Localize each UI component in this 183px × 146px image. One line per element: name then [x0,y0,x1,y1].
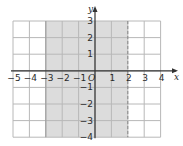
x-tick-label: −1 [73,73,86,83]
origin-label: O [88,73,96,83]
y-axis-arrow-icon [93,6,98,12]
y-tick-label: −3 [80,116,93,126]
x-tick-label: −5 [7,73,20,83]
x-tick-label: 3 [142,73,148,83]
x-tick-label: 2 [126,73,132,83]
inequality-graph: −5−4−3−2−11234 321−1−2−3−4 x y O [0,0,183,146]
y-tick-label: 2 [87,33,93,43]
y-axis-label: y [87,4,94,14]
y-tick-label: −4 [80,132,94,142]
x-axis-label: x [174,72,179,82]
y-tick-label: 1 [87,49,93,59]
x-tick-labels: −5−4−3−2−11234 [7,73,164,83]
y-tick-label: −1 [80,82,93,92]
x-tick-label: −2 [57,73,70,83]
y-tick-label: 3 [87,16,93,26]
x-tick-label: 1 [110,73,116,83]
x-tick-label: −3 [40,73,53,83]
x-tick-label: 4 [159,73,165,83]
y-tick-label: −2 [80,99,93,109]
x-tick-label: −4 [24,73,38,83]
